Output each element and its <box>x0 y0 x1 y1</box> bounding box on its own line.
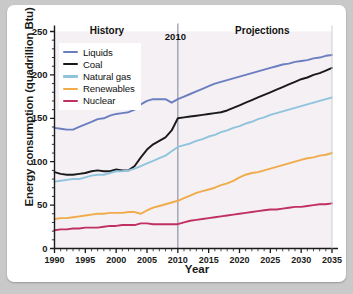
x-tick-label-1995: 1995 <box>69 255 101 265</box>
x-tick-label-2030: 2030 <box>285 255 317 265</box>
x-tick-label-2035: 2035 <box>316 255 346 265</box>
divider-year-label: 2010 <box>165 31 186 42</box>
y-tick-label-150: 150 <box>32 112 48 123</box>
y-tick-label-250: 250 <box>32 26 48 37</box>
legend-item-label: Coal <box>83 59 102 70</box>
y-tick-label-200: 200 <box>32 69 48 80</box>
x-tick-label-2020: 2020 <box>224 255 256 265</box>
x-tick-label-2005: 2005 <box>131 255 163 265</box>
legend-swatch-icon <box>63 75 78 77</box>
energy-consumption-chart: Energy consumption (quadrillion Btu) Yea… <box>7 5 346 282</box>
legend-swatch-icon <box>63 63 78 65</box>
chart-legend: LiquidsCoalNatural gasRenewablesNuclear <box>59 43 141 110</box>
legend-item-label: Renewables <box>83 83 135 94</box>
legend-item-label: Natural gas <box>83 71 131 82</box>
legend-item-coal: Coal <box>63 58 135 70</box>
plot-area <box>7 5 346 282</box>
legend-item-label: Nuclear <box>83 95 115 106</box>
legend-swatch-icon <box>63 100 78 102</box>
legend-item-renewables: Renewables <box>63 83 135 95</box>
y-tick-label-0: 0 <box>42 243 47 254</box>
legend-item-nuclear: Nuclear <box>63 95 135 107</box>
figure-card: Energy consumption (quadrillion Btu) Yea… <box>7 5 346 282</box>
history-label: History <box>81 25 133 36</box>
projections-label: Projections <box>235 25 287 36</box>
y-tick-label-100: 100 <box>32 156 48 167</box>
legend-item-label: Liquids <box>83 47 113 58</box>
y-tick-label-50: 50 <box>37 199 48 210</box>
legend-item-natural-gas: Natural gas <box>63 70 135 82</box>
x-tick-label-2000: 2000 <box>100 255 132 265</box>
x-tick-label-2010: 2010 <box>162 255 194 265</box>
legend-item-liquids: Liquids <box>63 46 135 58</box>
legend-swatch-icon <box>63 51 78 53</box>
legend-swatch-icon <box>63 88 78 90</box>
x-tick-label-2025: 2025 <box>254 255 286 265</box>
x-tick-label-2015: 2015 <box>193 255 225 265</box>
x-tick-label-1990: 1990 <box>39 255 71 265</box>
